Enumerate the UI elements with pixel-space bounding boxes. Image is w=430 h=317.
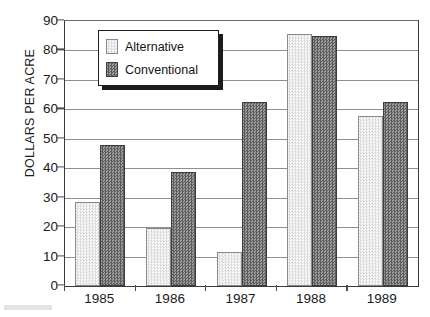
y-axis-tick-mark — [56, 226, 64, 227]
x-axis-tick-label: 1987 — [206, 291, 276, 306]
y-axis-tick-mark — [56, 49, 64, 50]
y-axis-tick-mark — [56, 255, 64, 256]
bar-chart: DOLLARS PER ACRE 0102030405060708090 198… — [0, 0, 430, 317]
bar-1988-alternative — [287, 34, 312, 286]
y-axis-tick-label: 90 — [28, 13, 58, 28]
x-axis-tick-label: 1985 — [64, 291, 134, 306]
x-axis-tick-label: 1986 — [135, 291, 205, 306]
bar-1989-conventional — [383, 102, 408, 286]
y-axis-tick-label: 50 — [28, 130, 58, 145]
bar-1988-conventional — [312, 36, 337, 286]
y-axis-tick-mark — [56, 196, 64, 197]
x-axis-tick-label: 1988 — [276, 291, 346, 306]
y-axis-tick-label: 0 — [28, 278, 58, 293]
legend: Alternative Conventional — [98, 30, 219, 86]
y-axis-tick-label: 80 — [28, 42, 58, 57]
y-axis-tick-label: 70 — [28, 71, 58, 86]
y-axis-tick-label: 60 — [28, 101, 58, 116]
y-axis-tick-label: 10 — [28, 248, 58, 263]
legend-item-conventional: Conventional — [106, 58, 212, 81]
bar-1985-alternative — [75, 202, 100, 287]
bar-1986-alternative — [146, 228, 171, 286]
y-axis-tick-mark — [56, 78, 64, 79]
y-axis-tick-mark — [56, 19, 64, 20]
bar-1985-conventional — [100, 145, 125, 286]
y-axis-tick-mark — [56, 284, 64, 285]
bar-1987-alternative — [217, 252, 242, 286]
scan-artifact — [4, 305, 52, 310]
legend-item-alternative: Alternative — [106, 35, 212, 58]
legend-label-alternative: Alternative — [125, 40, 184, 54]
bar-1989-alternative — [358, 116, 383, 286]
x-axis-tick-label: 1989 — [347, 291, 417, 306]
dark-checker-swatch — [106, 62, 118, 77]
y-axis-tick-mark — [56, 137, 64, 138]
y-axis-tick-label: 20 — [28, 219, 58, 234]
bar-1986-conventional — [171, 172, 196, 286]
y-axis-tick-label: 30 — [28, 189, 58, 204]
bar-1987-conventional — [242, 102, 267, 286]
light-checker-swatch — [106, 39, 118, 54]
legend-label-conventional: Conventional — [125, 63, 198, 77]
y-axis-tick-label: 40 — [28, 160, 58, 175]
y-axis-tick-mark — [56, 167, 64, 168]
y-axis-tick-mark — [56, 108, 64, 109]
